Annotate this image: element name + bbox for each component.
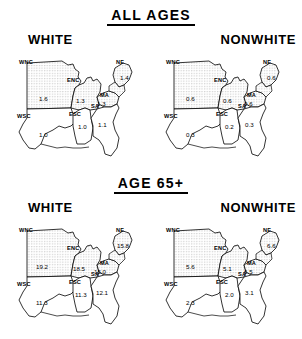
- region-label-ne: NE: [116, 228, 124, 234]
- map-age-65-plus-nonwhite: WNC ENC NE MA WSC ESC SA 5.6 5.1 6.6 6.5…: [152, 220, 300, 338]
- region-label-ma: MA: [100, 261, 109, 267]
- value-wsc: 0.3: [186, 132, 195, 138]
- race-label-white-age-65-plus: WHITE: [28, 200, 73, 216]
- value-wsc: 11.3: [36, 300, 48, 306]
- region-label-esc: ESC: [216, 280, 228, 286]
- value-ma: 0.6: [244, 101, 253, 107]
- value-sa: 0.3: [245, 122, 254, 128]
- value-wsc: 2.3: [186, 300, 195, 306]
- value-esc: 1.0: [78, 124, 87, 130]
- value-enc: 18.5: [73, 266, 85, 272]
- region-label-wsc: WSC: [164, 282, 178, 288]
- figure-four-maps: ALL AGES WHITE NONWHITE: [0, 0, 302, 339]
- region-label-esc: ESC: [69, 280, 81, 286]
- panel-title-age-65-plus-text: AGE 65+: [114, 176, 188, 194]
- value-enc: 5.1: [223, 266, 232, 272]
- value-wsc: 1.0: [39, 132, 48, 138]
- value-wnc: 0.6: [186, 96, 195, 102]
- region-label-ma: MA: [247, 93, 256, 99]
- race-row-all-ages: WHITE NONWHITE: [0, 32, 302, 48]
- region-label-wnc: WNC: [19, 60, 33, 66]
- race-label-nonwhite-all-ages: NONWHITE: [220, 32, 296, 48]
- region-label-enc: ENC: [214, 246, 226, 252]
- value-ma: 1.3: [97, 101, 106, 107]
- region-label-wnc: WNC: [19, 228, 33, 234]
- panel-title-all-ages-text: ALL AGES: [107, 8, 195, 26]
- value-esc: 0.2: [225, 124, 234, 130]
- region-label-ne: NE: [263, 60, 271, 66]
- panel-age-65-plus: AGE 65+ WHITE NONWHITE: [0, 172, 302, 339]
- map-all-ages-nonwhite: WNC ENC NE MA WSC ESC SA 0.6 0.6 0.6 0.6…: [152, 52, 300, 170]
- value-sa: 1.1: [98, 122, 107, 128]
- value-ne: 1.4: [120, 75, 129, 81]
- value-ne: 15.8: [117, 243, 129, 249]
- panel-title-age-65-plus: AGE 65+: [0, 176, 302, 194]
- region-label-enc: ENC: [67, 246, 79, 252]
- region-label-ma: MA: [247, 261, 256, 267]
- region-label-wnc: WNC: [166, 228, 180, 234]
- value-wnc: 19.2: [36, 264, 48, 270]
- value-ne: 6.6: [267, 243, 276, 249]
- region-label-enc: ENC: [214, 78, 226, 84]
- region-label-enc: ENC: [67, 78, 79, 84]
- region-label-ne: NE: [263, 228, 271, 234]
- value-ma: 6.5: [244, 269, 253, 275]
- race-label-nonwhite-age-65-plus: NONWHITE: [220, 200, 296, 216]
- race-label-white-all-ages: WHITE: [28, 32, 73, 48]
- value-ne: 0.6: [267, 75, 276, 81]
- value-enc: 1.3: [76, 98, 85, 104]
- panel-all-ages: ALL AGES WHITE NONWHITE: [0, 0, 302, 172]
- region-label-wsc: WSC: [17, 114, 31, 120]
- value-wnc: 1.6: [39, 96, 48, 102]
- value-wnc: 5.6: [186, 264, 195, 270]
- value-enc: 0.6: [223, 98, 232, 104]
- value-esc: 2.0: [225, 292, 234, 298]
- region-label-wnc: WNC: [166, 60, 180, 66]
- region-label-ma: MA: [100, 93, 109, 99]
- map-age-65-plus-white: WNC ENC NE MA WSC ESC SA 19.2 18.5 15.8 …: [5, 220, 153, 338]
- value-sa: 12.1: [96, 290, 108, 296]
- map-all-ages-white: WNC ENC NE MA WSC ESC SA 1.6 1.3 1.4 1.3…: [5, 52, 153, 170]
- region-label-wsc: WSC: [17, 282, 31, 288]
- region-label-wsc: WSC: [164, 114, 178, 120]
- panel-title-all-ages: ALL AGES: [0, 8, 302, 26]
- value-esc: 11.3: [75, 292, 87, 298]
- region-label-ne: NE: [116, 60, 124, 66]
- region-label-esc: ESC: [216, 112, 228, 118]
- value-ma: 15.0: [94, 269, 106, 275]
- region-label-esc: ESC: [69, 112, 81, 118]
- race-row-age-65-plus: WHITE NONWHITE: [0, 200, 302, 216]
- value-sa: 3.1: [245, 290, 254, 296]
